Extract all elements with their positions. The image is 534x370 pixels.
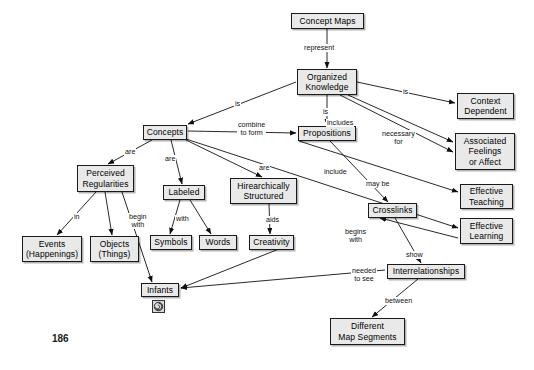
link-label-l19: aids <box>265 216 280 224</box>
link-label-l4: is <box>322 108 329 116</box>
node-concept_maps[interactable]: Concept Maps <box>291 13 364 29</box>
concept-map-canvas: Concept MapsOrganized KnowledgeContext D… <box>0 0 534 370</box>
node-crosslinks[interactable]: Crosslinks <box>368 203 417 218</box>
node-perceived_regularities[interactable]: Perceived Regularities <box>77 165 134 192</box>
node-different_map_segments[interactable]: Different Map Segments <box>330 318 405 345</box>
link-label-l23: between <box>384 297 413 305</box>
link-effective_learning-to-crosslinks <box>380 218 458 238</box>
link-label-l13: may be <box>365 180 391 188</box>
link-label-l7: combine to form <box>237 121 266 137</box>
node-effective_teaching[interactable]: Effective Teaching <box>460 184 513 209</box>
node-propositions[interactable]: Propositions <box>298 126 356 141</box>
link-perceived_regularities-to-objects_things <box>105 192 112 235</box>
node-interrelationships[interactable]: Interrelationships <box>387 264 465 279</box>
link-concepts-to-hierarchically_structured <box>186 140 262 177</box>
link-label-l9: are <box>164 155 176 163</box>
link-label-l16: begin with <box>128 213 148 229</box>
link-label-l21: begins with <box>344 228 367 244</box>
link-label-l12: include <box>323 168 348 176</box>
link-labeled-to-words <box>190 200 211 234</box>
link-concepts-to-effective_learning <box>186 139 458 228</box>
node-concepts[interactable]: Concepts <box>143 125 187 140</box>
node-creativity[interactable]: Creativity <box>249 235 294 250</box>
link-label-l5: includes <box>326 119 354 127</box>
node-organized_knowledge[interactable]: Organized Knowledge <box>297 69 357 95</box>
link-label-l10: are <box>258 164 270 172</box>
link-label-l17: with <box>175 215 190 223</box>
node-words[interactable]: Words <box>199 235 237 250</box>
page-number: 186 <box>52 333 69 344</box>
link-label-l3: is <box>234 100 241 108</box>
node-hierarchically_structured[interactable]: Hirearchically Structured <box>230 178 297 204</box>
link-label-l8: are <box>124 148 136 156</box>
node-symbols[interactable]: Symbols <box>150 235 192 250</box>
node-objects_things[interactable]: Objects (Things) <box>90 236 139 262</box>
link-label-l14: in <box>73 213 81 221</box>
node-labeled[interactable]: Labeled <box>163 185 205 200</box>
link-organized_knowledge-to-concepts <box>188 82 296 124</box>
link-label-l2: is <box>402 88 409 96</box>
node-events_happenings[interactable]: Events (Happenings) <box>22 236 82 262</box>
link-label-l22: needed to see <box>351 267 377 283</box>
link-label-l20: show <box>405 251 424 259</box>
node-context_dependent[interactable]: Context Dependent <box>457 93 514 119</box>
spiral-badge-icon <box>152 299 165 317</box>
node-associated_feelings[interactable]: Associated Feelings or Affect <box>455 133 515 170</box>
node-effective_learning[interactable]: Effective Learning <box>460 218 513 244</box>
link-label-l6: necessary for <box>381 130 416 146</box>
link-label-l1: represent <box>303 44 335 52</box>
node-infants[interactable]: Infants <box>141 283 179 297</box>
